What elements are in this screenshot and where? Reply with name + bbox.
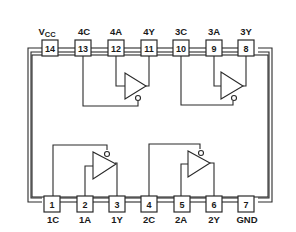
pin-label: 1C — [47, 214, 59, 225]
pin-label: 3Y — [240, 26, 252, 37]
gate-4-enable-wire — [83, 55, 138, 106]
pin-10: 10 3C — [173, 26, 189, 56]
pin-number: 6 — [211, 200, 216, 210]
pin-number: 7 — [243, 200, 248, 210]
gate-1-buffer — [53, 145, 117, 197]
bottom-pin-row: 1 1C 2 1A 3 1Y 4 2C 5 2A 6 2Y — [44, 196, 258, 225]
gate-2-buffer — [149, 144, 214, 197]
gnd-rail-right — [258, 48, 272, 202]
pin-number: 3 — [114, 200, 119, 210]
pin-number: 5 — [179, 200, 184, 210]
pin-12: 12 4A — [108, 26, 124, 56]
gate-3-input-wire — [214, 55, 221, 86]
pin-2: 2 1A — [77, 196, 93, 225]
pin-9: 9 3A — [206, 26, 222, 56]
gate-2-input-wire — [181, 164, 188, 197]
pin-label: 1A — [79, 214, 91, 225]
pin-number: 8 — [243, 44, 248, 54]
pin-label: GND — [236, 214, 257, 225]
enable-bubble-icon — [136, 96, 141, 101]
gate-3-enable-wire — [181, 55, 233, 105]
buffer-triangle-icon — [125, 73, 146, 99]
enable-bubble-icon — [232, 96, 237, 101]
vcc-rail-left — [28, 48, 42, 202]
gate-4-buffer — [83, 55, 149, 106]
buffer-triangle-icon — [93, 152, 116, 179]
pin-number: 2 — [82, 200, 87, 210]
pin-number: 9 — [211, 44, 216, 54]
chip-body — [28, 48, 272, 202]
pin-label: 4C — [78, 26, 90, 37]
pin-label: 4A — [110, 26, 122, 37]
pin-5: 5 2A — [174, 196, 190, 225]
enable-bubble-icon — [199, 151, 204, 156]
gate-4-input-wire — [116, 55, 125, 86]
pin-number: 4 — [146, 200, 151, 210]
pin-1: 1 1C — [44, 196, 60, 225]
pin-3: 3 1Y — [109, 196, 125, 225]
pin-label: 4Y — [143, 26, 155, 37]
enable-bubble-icon — [105, 152, 110, 157]
buffer-triangle-icon — [221, 72, 243, 99]
pin-7: 7 GND — [236, 196, 257, 225]
pin-4: 4 2C — [141, 196, 157, 225]
pin-11: 11 4Y — [141, 26, 157, 56]
pin-label: VCC — [38, 26, 56, 39]
gate-1-enable-wire — [53, 145, 107, 197]
gate-3-buffer — [181, 55, 246, 105]
ic-pinout-diagram: 14 VCC 13 4C 12 4A 11 4Y 10 3C 9 3A — [0, 0, 296, 232]
pin-number: 1 — [49, 200, 54, 210]
gate-1-output-wire — [115, 163, 117, 197]
pin-label: 2A — [175, 214, 187, 225]
pin-label: 2Y — [208, 214, 220, 225]
gate-1-input-wire — [85, 166, 93, 197]
gate-3-output-wire — [243, 55, 246, 86]
gate-2-enable-wire — [149, 144, 200, 197]
pin-number: 12 — [111, 44, 121, 54]
pin-6: 6 2Y — [206, 196, 222, 225]
pin-number: 10 — [176, 44, 186, 54]
pin-label: 2C — [143, 214, 155, 225]
gate-4-output-wire — [145, 55, 149, 86]
pin-number: 14 — [45, 44, 55, 54]
pin-number: 11 — [144, 44, 154, 54]
chip-outline — [32, 55, 268, 197]
pin-13: 13 4C — [75, 26, 91, 56]
pin-label: 3A — [208, 26, 220, 37]
pin-number: 13 — [78, 44, 88, 54]
pin-label: 3C — [175, 26, 187, 37]
gate-2-output-wire — [210, 163, 214, 197]
pin-label: 1Y — [111, 214, 123, 225]
pin-8: 8 3Y — [238, 26, 254, 56]
